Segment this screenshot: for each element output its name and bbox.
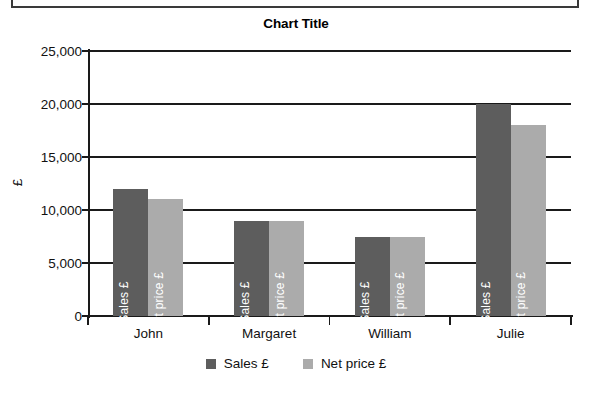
legend-label: Net price £ bbox=[321, 356, 386, 371]
bar-inner-label: Sales £ bbox=[358, 281, 372, 322]
x-axis-tick bbox=[449, 317, 451, 325]
x-axis-tick bbox=[570, 317, 572, 325]
bar-inner-label: Sales £ bbox=[117, 281, 131, 322]
bar-inner-label: Net price £ bbox=[152, 272, 166, 332]
x-axis-tick bbox=[208, 317, 210, 325]
bar: Sales £ bbox=[113, 189, 148, 316]
chart-legend: Sales £Net price £ bbox=[0, 356, 592, 371]
x-axis-tick bbox=[329, 317, 331, 325]
y-axis-tick-label: 0 bbox=[16, 309, 82, 324]
page-border-fragment bbox=[11, 0, 579, 8]
legend-label: Sales £ bbox=[224, 356, 269, 371]
y-axis-tick-label: 10,000 bbox=[16, 203, 82, 218]
bar: Sales £ bbox=[234, 221, 269, 316]
x-axis-category-label: Margaret bbox=[242, 326, 296, 341]
y-axis-tick-label: 5,000 bbox=[16, 256, 82, 271]
bar: Sales £ bbox=[355, 237, 390, 317]
legend-swatch-icon bbox=[303, 359, 313, 369]
bar: Sales £ bbox=[476, 104, 511, 316]
bar-inner-label: Net price £ bbox=[393, 272, 407, 332]
legend-swatch-icon bbox=[206, 359, 216, 369]
y-axis-tick-labels: 05,00010,00015,00020,00025,000 bbox=[12, 0, 82, 393]
bar: Net price £ bbox=[390, 237, 425, 317]
bar-inner-label: Sales £ bbox=[238, 281, 252, 322]
bar-inner-label: Net price £ bbox=[514, 272, 528, 332]
bar: Net price £ bbox=[269, 221, 304, 316]
bar: Net price £ bbox=[148, 199, 183, 316]
bar: Net price £ bbox=[511, 125, 546, 316]
legend-item[interactable]: Sales £ bbox=[206, 356, 269, 371]
plot-area: Sales £Net price £Sales £Net price £Sale… bbox=[88, 51, 571, 316]
x-axis-tick bbox=[87, 317, 89, 325]
legend-item[interactable]: Net price £ bbox=[303, 356, 386, 371]
chart-title: Chart Title bbox=[0, 16, 592, 31]
y-axis-tick-label: 25,000 bbox=[16, 44, 82, 59]
y-axis-tick-label: 15,000 bbox=[16, 150, 82, 165]
bar-inner-label: Net price £ bbox=[273, 272, 287, 332]
bar-inner-label: Sales £ bbox=[479, 281, 493, 322]
y-axis-tick-label: 20,000 bbox=[16, 97, 82, 112]
